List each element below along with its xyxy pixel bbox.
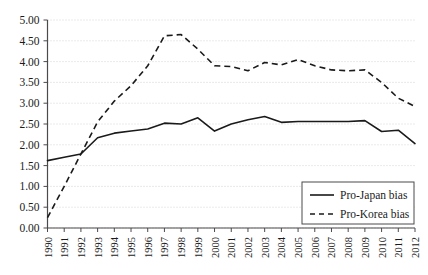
- chart-legend: Pro-Japan biasPro-Korea bias: [302, 182, 414, 224]
- x-tick-label: 2007: [326, 237, 337, 258]
- x-tick-label: 1995: [126, 237, 137, 258]
- x-tick-label: 2002: [243, 237, 254, 258]
- y-tick-label: 2.00: [19, 139, 39, 151]
- chart-container: 0.000.501.001.502.002.503.003.504.004.50…: [0, 0, 428, 275]
- y-tick-label: 4.50: [19, 35, 39, 47]
- x-tick-label: 1991: [59, 237, 70, 258]
- y-tick-label: 3.50: [19, 76, 39, 88]
- x-tick-label: 2005: [293, 237, 304, 258]
- x-tick-label: 1992: [76, 237, 87, 258]
- x-tick-label: 2010: [377, 237, 388, 258]
- legend-item-label: Pro-Japan bias: [340, 189, 408, 202]
- line-chart: 0.000.501.001.502.002.503.003.504.004.50…: [0, 0, 428, 275]
- y-tick-label: 1.50: [19, 160, 39, 172]
- x-tick-label: 2012: [410, 237, 421, 258]
- x-tick-label: 2003: [260, 237, 271, 258]
- y-axis-tick-labels: 0.000.501.001.502.002.503.003.504.004.50…: [19, 14, 47, 234]
- y-tick-label: 1.00: [19, 180, 39, 192]
- x-tick-label: 2001: [226, 237, 237, 258]
- x-tick-label: 1999: [193, 237, 204, 258]
- x-tick-label: 1990: [43, 237, 54, 258]
- y-tick-label: 5.00: [19, 14, 39, 26]
- y-tick-label: 0.50: [19, 201, 39, 213]
- x-tick-label: 2009: [360, 237, 371, 258]
- x-tick-label: 1993: [93, 237, 104, 258]
- y-tick-label: 4.00: [19, 56, 39, 68]
- y-tick-label: 2.50: [19, 118, 39, 130]
- legend-item-label: Pro-Korea bias: [340, 208, 410, 220]
- y-tick-label: 3.00: [19, 97, 39, 109]
- x-tick-label: 2004: [276, 236, 287, 258]
- x-tick-label: 2011: [393, 237, 404, 258]
- x-axis-tick-labels: 1990199119921993199419951996199719981999…: [43, 228, 422, 258]
- x-tick-label: 1998: [176, 237, 187, 258]
- x-tick-label: 2006: [310, 237, 321, 258]
- x-tick-label: 1997: [159, 237, 170, 258]
- x-tick-label: 1996: [143, 237, 154, 258]
- y-tick-label: 0.00: [19, 222, 39, 234]
- x-tick-label: 1994: [109, 236, 120, 258]
- series-line-solid: [48, 117, 416, 161]
- x-tick-label: 2000: [210, 237, 221, 258]
- x-tick-label: 2008: [343, 237, 354, 258]
